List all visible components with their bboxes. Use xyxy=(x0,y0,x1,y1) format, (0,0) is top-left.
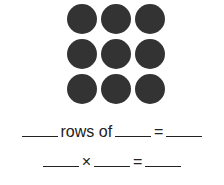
rows-blank[interactable] xyxy=(22,122,58,137)
dot xyxy=(135,39,165,69)
rows-of-label: rows of xyxy=(61,123,113,140)
equals-sign: = xyxy=(154,123,163,140)
dot xyxy=(101,4,131,34)
dot xyxy=(101,74,131,104)
dot xyxy=(67,74,97,104)
equals-sign: = xyxy=(133,153,142,170)
total-blank[interactable] xyxy=(166,122,202,137)
rows-of-sentence: rows of= xyxy=(0,122,224,141)
per-row-blank[interactable] xyxy=(115,122,151,137)
multiplication-sentence: ×= xyxy=(0,152,224,171)
product-blank[interactable] xyxy=(145,152,181,167)
dot xyxy=(135,4,165,34)
factor1-blank[interactable] xyxy=(43,152,79,167)
dot-array xyxy=(67,4,165,102)
dot xyxy=(101,39,131,69)
dot xyxy=(67,39,97,69)
times-sign: × xyxy=(82,153,91,170)
factor2-blank[interactable] xyxy=(94,152,130,167)
dot xyxy=(67,4,97,34)
dot xyxy=(135,74,165,104)
